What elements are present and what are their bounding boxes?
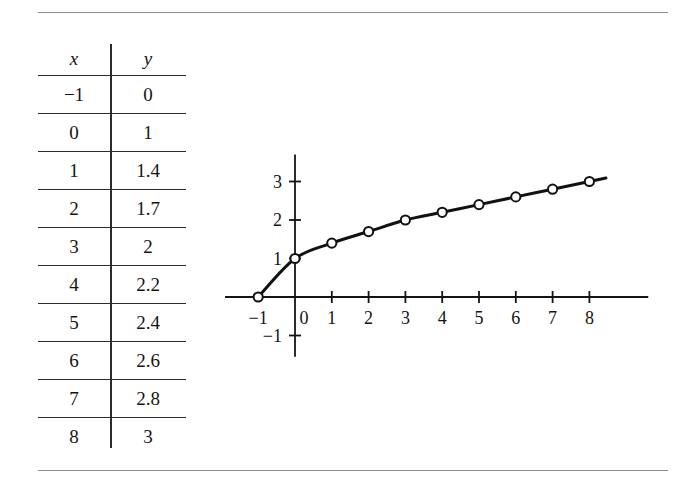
cell-x: 1 <box>38 152 110 190</box>
x-tick-label: 6 <box>511 308 520 328</box>
data-curve <box>258 178 606 297</box>
data-point <box>364 227 373 236</box>
cell-y: 1.7 <box>110 190 186 228</box>
y-tick-label: 2 <box>273 210 282 230</box>
table-row: 2 1.7 <box>38 190 186 228</box>
cell-x: 4 <box>38 266 110 304</box>
xy-data-table: x y −1 0 0 1 1 1.4 2 1.7 <box>38 42 186 455</box>
table-row: 0 1 <box>38 114 186 152</box>
table-header-row: x y <box>38 42 186 76</box>
data-point <box>548 185 557 194</box>
cell-y: 1.4 <box>110 152 186 190</box>
data-point <box>438 208 447 217</box>
graph-container: 12345678−11230−1 <box>225 105 675 405</box>
data-point <box>585 177 594 186</box>
origin-label: 0 <box>300 308 309 328</box>
cell-y: 3 <box>110 418 186 456</box>
top-divider-rule <box>38 12 668 13</box>
data-point <box>290 254 299 263</box>
y-tick-label: 3 <box>273 172 282 192</box>
cell-y: 2.2 <box>110 266 186 304</box>
cell-y: 2.6 <box>110 342 186 380</box>
x-tick-label: 5 <box>475 308 484 328</box>
cell-x: 6 <box>38 342 110 380</box>
y-tick-label: −1 <box>263 326 282 346</box>
table-row: 5 2.4 <box>38 304 186 342</box>
table-row: 1 1.4 <box>38 152 186 190</box>
cell-x: 8 <box>38 418 110 456</box>
data-point-markers <box>254 177 594 302</box>
x-tick-label: 1 <box>327 308 336 328</box>
cell-y: 2.4 <box>110 304 186 342</box>
data-point <box>511 192 520 201</box>
x-tick-label-negative-one: −1 <box>249 308 268 328</box>
cell-x: 2 <box>38 190 110 228</box>
data-table-container: x y −1 0 0 1 1 1.4 2 1.7 <box>38 42 186 455</box>
cell-y: 2.8 <box>110 380 186 418</box>
table-body: −1 0 0 1 1 1.4 2 1.7 3 2 <box>38 76 186 456</box>
table-row: 4 2.2 <box>38 266 186 304</box>
cell-x: −1 <box>38 76 110 114</box>
table-row: 7 2.8 <box>38 380 186 418</box>
column-header-y: y <box>110 42 186 76</box>
data-point <box>254 292 263 301</box>
figure-page: x y −1 0 0 1 1 1.4 2 1.7 <box>0 0 700 485</box>
x-tick-label: 7 <box>548 308 557 328</box>
data-point <box>401 215 410 224</box>
x-tick-label: 4 <box>438 308 447 328</box>
table-row: 3 2 <box>38 228 186 266</box>
y-tick-label: 1 <box>273 249 282 269</box>
cell-x: 3 <box>38 228 110 266</box>
x-tick-label: 3 <box>401 308 410 328</box>
table-row: −1 0 <box>38 76 186 114</box>
cell-x: 7 <box>38 380 110 418</box>
column-header-x: x <box>38 42 110 76</box>
cell-y: 2 <box>110 228 186 266</box>
data-point <box>327 239 336 248</box>
data-point <box>474 200 483 209</box>
cell-y: 0 <box>110 76 186 114</box>
cell-x: 0 <box>38 114 110 152</box>
table-row: 6 2.6 <box>38 342 186 380</box>
x-tick-label: 2 <box>364 308 373 328</box>
cell-x: 5 <box>38 304 110 342</box>
table-row: 8 3 <box>38 418 186 456</box>
bottom-divider-rule <box>38 470 668 471</box>
coordinate-plot: 12345678−11230−1 <box>225 105 675 405</box>
table-column-divider <box>110 44 112 448</box>
cell-y: 1 <box>110 114 186 152</box>
x-tick-label: 8 <box>585 308 594 328</box>
